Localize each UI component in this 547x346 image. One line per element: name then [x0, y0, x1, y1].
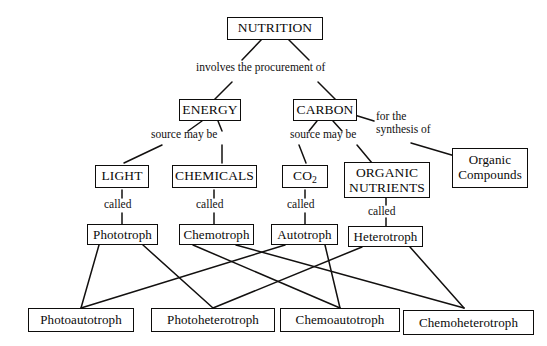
- co2-prefix: CO: [293, 168, 312, 183]
- co2-subscript: 2: [312, 173, 317, 184]
- node-chemoheterotroph[interactable]: Chemoheterotroph: [403, 310, 534, 335]
- edge-nutrition-carbon-upper: [288, 39, 309, 60]
- synthesis-line-2: synthesis of: [376, 123, 431, 135]
- synthesis-line-1: for the: [376, 110, 406, 122]
- concept-map-canvas: NUTRITION involves the procurement of EN…: [0, 0, 547, 346]
- edge-carbon-co2-lower: [299, 145, 306, 163]
- edge-autotroph-photoautotroph: [81, 245, 285, 308]
- link-label-called-chemicals: called: [196, 198, 223, 210]
- node-organic-compounds[interactable]: Organic Compounds: [452, 148, 528, 188]
- link-label-source-carbon: source may be: [290, 128, 356, 140]
- edge-energy-chemicals-upper: [218, 121, 222, 131]
- node-carbon[interactable]: CARBON: [293, 99, 357, 121]
- organic-compounds-line-2: Compounds: [458, 168, 522, 183]
- node-autotroph[interactable]: Autotroph: [271, 224, 338, 245]
- organic-nutrients-line-1: ORGANIC: [356, 165, 418, 180]
- edge-nutrition-energy-upper: [242, 39, 262, 60]
- edge-heterotroph-chemoheterotroph: [410, 247, 464, 308]
- link-label-called-organic: called: [368, 205, 395, 217]
- link-label-source-energy: source may be: [151, 128, 217, 140]
- co2-label: CO2: [293, 169, 317, 185]
- edge-synthesis-organic-compounds: [411, 143, 455, 156]
- edge-chemotroph-chemoautotroph: [193, 245, 340, 308]
- organic-nutrients-line-2: NUTRIENTS: [349, 180, 425, 195]
- node-heterotroph[interactable]: Heterotroph: [348, 226, 423, 247]
- node-organic-nutrients[interactable]: ORGANIC NUTRIENTS: [344, 162, 430, 198]
- organic-compounds-line-1: Organic: [469, 153, 511, 168]
- node-photoautotroph[interactable]: Photoautotroph: [28, 308, 134, 332]
- edge-phototroph-photoheterotroph: [143, 245, 213, 308]
- node-phototroph[interactable]: Phototroph: [87, 224, 158, 245]
- link-label-involves: involves the procurement of: [196, 61, 325, 73]
- edge-energy-light-lower: [124, 145, 162, 163]
- edge-carbon-organic-lower: [357, 145, 372, 163]
- node-chemicals[interactable]: CHEMICALS: [172, 165, 257, 188]
- link-label-synthesis: for the synthesis of: [376, 110, 438, 136]
- node-energy[interactable]: ENERGY: [179, 99, 241, 121]
- link-label-called-co2: called: [287, 198, 314, 210]
- link-label-called-light: called: [104, 198, 131, 210]
- node-light[interactable]: LIGHT: [95, 165, 149, 188]
- node-co2[interactable]: CO2: [282, 165, 328, 188]
- edge-heterotroph-photoheterotroph: [213, 247, 362, 308]
- node-chemotroph[interactable]: Chemotroph: [179, 224, 254, 245]
- node-nutrition[interactable]: NUTRITION: [227, 17, 323, 40]
- edge-chemotroph-chemoheterotroph: [236, 245, 464, 308]
- edge-autotroph-chemoautotroph: [325, 245, 340, 308]
- edge-phototroph-photoautotroph: [81, 245, 99, 308]
- node-chemoautotroph[interactable]: Chemoautotroph: [280, 308, 400, 332]
- node-photoheterotroph[interactable]: Photoheterotroph: [151, 308, 275, 332]
